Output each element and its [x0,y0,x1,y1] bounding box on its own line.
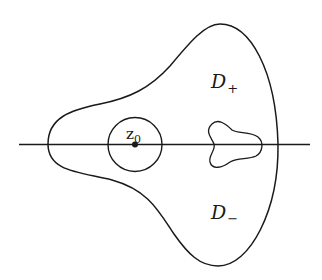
label-d-plus: D+ [210,70,238,96]
label-z0: z0 [126,125,141,146]
domain-diagram: z0 D+ D− [0,0,322,280]
label-d-minus: D− [210,201,238,226]
